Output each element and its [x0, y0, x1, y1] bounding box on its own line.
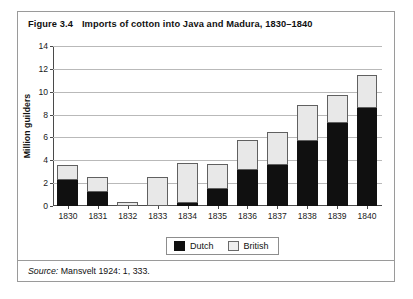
bar-stack	[267, 46, 288, 206]
y-tick-mark	[50, 92, 53, 93]
x-tick-label: 1831	[88, 211, 107, 221]
x-tick-label: 1839	[328, 211, 347, 221]
x-tick-mark	[277, 206, 278, 209]
bar-segment-british	[207, 164, 228, 189]
bar-segment-british	[57, 165, 78, 179]
legend-item-dutch[interactable]: Dutch	[174, 241, 214, 251]
bar-group[interactable]	[177, 46, 198, 206]
bar-segment-british	[327, 95, 348, 124]
bar-group[interactable]	[207, 46, 228, 206]
legend-label-dutch: Dutch	[190, 241, 214, 251]
y-tick-mark	[50, 206, 53, 207]
y-tick-mark	[50, 160, 53, 161]
bar-group[interactable]	[87, 46, 108, 206]
bar-segment-dutch	[87, 192, 108, 206]
bar-group[interactable]	[297, 46, 318, 206]
y-tick-label: 12	[38, 64, 48, 74]
bar-group[interactable]	[357, 46, 378, 206]
y-tick-label: 14	[38, 41, 48, 51]
figure-number: Figure 3.4	[28, 19, 73, 29]
bar-segment-british	[147, 177, 168, 206]
bar-segment-british	[357, 75, 378, 108]
bar-group[interactable]	[327, 46, 348, 206]
bar-group[interactable]	[147, 46, 168, 206]
x-tick-label: 1832	[118, 211, 137, 221]
y-axis-label: Million guilders	[22, 94, 32, 159]
bar-stack	[57, 46, 78, 206]
y-tick-label: 4	[43, 155, 48, 165]
x-tick-label: 1833	[148, 211, 167, 221]
chart-legend: DutchBritish	[166, 237, 279, 255]
x-tick-mark	[247, 206, 248, 209]
bar-stack	[297, 46, 318, 206]
bar-segment-dutch	[57, 180, 78, 206]
figure-title-text: Imports of cotton into Java and Madura, …	[82, 19, 313, 29]
bar-group[interactable]	[117, 46, 138, 206]
bar-segment-dutch	[327, 123, 348, 206]
y-tick-mark	[50, 69, 53, 70]
bar-stack	[327, 46, 348, 206]
bar-segment-british	[87, 177, 108, 191]
x-tick-mark	[337, 206, 338, 209]
x-tick-mark	[307, 206, 308, 209]
source-divider	[18, 260, 394, 261]
source-label: Source:	[28, 266, 58, 276]
x-tick-mark	[128, 206, 129, 209]
x-tick-mark	[218, 206, 219, 209]
bar-segment-dutch	[207, 189, 228, 206]
bar-stack	[207, 46, 228, 206]
bar-stack	[357, 46, 378, 206]
x-tick-label: 1840	[358, 211, 377, 221]
bar-group[interactable]	[57, 46, 78, 206]
bar-group[interactable]	[237, 46, 258, 206]
bar-segment-british	[267, 132, 288, 165]
bar-segment-dutch	[237, 170, 258, 206]
bar-segment-british	[237, 140, 258, 170]
y-tick-mark	[50, 137, 53, 138]
x-tick-label: 1830	[58, 211, 77, 221]
legend-label-british: British	[244, 241, 269, 251]
y-tick-label: 0	[43, 201, 48, 211]
bar-segment-british	[177, 163, 198, 202]
y-tick-label: 6	[43, 132, 48, 142]
x-tick-label: 1837	[268, 211, 287, 221]
x-tick-mark	[367, 206, 368, 209]
source-citation: Mansvelt 1924: 1, 333.	[58, 266, 149, 276]
x-tick-label: 1835	[208, 211, 227, 221]
y-tick-label: 8	[43, 110, 48, 120]
bar-stack	[147, 46, 168, 206]
legend-item-british[interactable]: British	[228, 241, 269, 251]
y-tick-mark	[50, 46, 53, 47]
bar-segment-dutch	[267, 165, 288, 206]
x-tick-mark	[188, 206, 189, 209]
x-tick-mark	[68, 206, 69, 209]
bar-stack	[237, 46, 258, 206]
bar-segment-british	[297, 105, 318, 141]
bar-stack	[177, 46, 198, 206]
bar-stack	[117, 46, 138, 206]
x-tick-label: 1838	[298, 211, 317, 221]
x-tick-label: 1836	[238, 211, 257, 221]
bar-segment-dutch	[297, 141, 318, 206]
y-tick-mark	[50, 115, 53, 116]
y-tick-mark	[50, 183, 53, 184]
legend-swatch-british	[228, 241, 239, 251]
x-tick-mark	[98, 206, 99, 209]
x-tick-label: 1834	[178, 211, 197, 221]
legend-swatch-dutch	[174, 241, 185, 251]
figure-panel: Figure 3.4Imports of cotton into Java an…	[17, 11, 395, 282]
bar-stack	[87, 46, 108, 206]
y-tick-label: 10	[38, 87, 48, 97]
bar-group[interactable]	[267, 46, 288, 206]
y-tick-label: 2	[43, 178, 48, 188]
chart-plot-area: Million guilders 02468101214 18301831183…	[53, 46, 382, 206]
x-tick-mark	[158, 206, 159, 209]
bar-segment-dutch	[357, 108, 378, 206]
figure-title: Figure 3.4Imports of cotton into Java an…	[28, 19, 313, 29]
source-line: Source: Mansvelt 1924: 1, 333.	[28, 266, 150, 276]
